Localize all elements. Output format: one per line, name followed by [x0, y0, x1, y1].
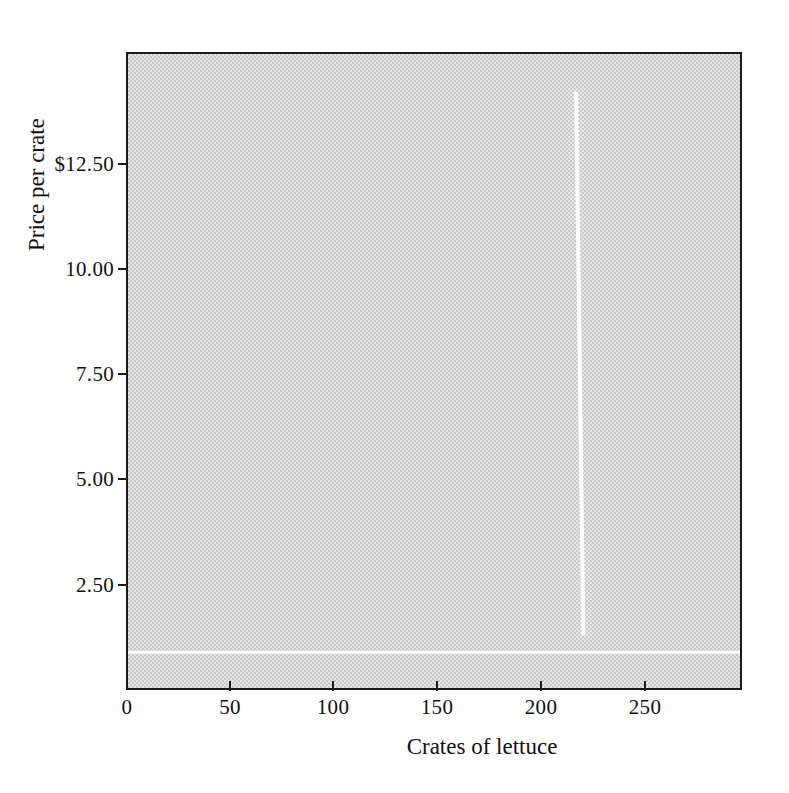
y-axis-title: Price per crate [25, 31, 48, 251]
supply-curve-line [576, 92, 583, 636]
xtick-mark-250 [644, 681, 646, 691]
plot-area [126, 52, 742, 690]
xtick-label-50: 50 [219, 697, 241, 718]
ytick-mark-10-00 [118, 268, 128, 270]
xtick-mark-50 [229, 681, 231, 691]
ytick-label-10-00: 10.00 [65, 259, 114, 280]
x-axis-title: Crates of lettuce [0, 735, 789, 758]
xtick-mark-200 [540, 681, 542, 691]
xtick-label-200: 200 [525, 697, 557, 718]
ytick-label-2-50: 2.50 [76, 575, 114, 596]
ytick-mark-7-50 [118, 373, 128, 375]
xtick-mark-100 [332, 681, 334, 691]
ytick-label-12-50: $12.50 [54, 154, 114, 175]
xtick-label-0: 0 [122, 697, 133, 718]
ytick-label-5-00: 5.00 [76, 469, 114, 490]
chart-figure: 2.50 5.00 7.50 10.00 $12.50 0 50 100 150… [0, 0, 789, 793]
ytick-mark-2-50 [118, 584, 128, 586]
xtick-label-250: 250 [629, 697, 661, 718]
ytick-mark-12-50 [118, 163, 128, 165]
ytick-label-7-50: 7.50 [76, 364, 114, 385]
ytick-mark-5-00 [118, 478, 128, 480]
xtick-label-150: 150 [421, 697, 453, 718]
plot-canvas [128, 54, 740, 688]
xtick-mark-150 [436, 681, 438, 691]
xtick-label-100: 100 [317, 697, 349, 718]
